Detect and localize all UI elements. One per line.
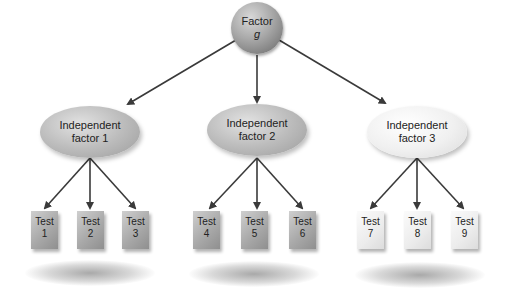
test-5-label: Test 5 bbox=[241, 216, 268, 240]
factor-g-label: Factor g bbox=[231, 15, 283, 41]
factor-3-label-line2: factor 3 bbox=[367, 132, 467, 145]
test-7-label-line1: Test bbox=[357, 216, 384, 228]
test-2-label: Test 2 bbox=[77, 216, 104, 240]
group-3-floor-shadow bbox=[355, 262, 485, 288]
test-4-label-line1: Test bbox=[193, 216, 220, 228]
test-2-label-line2: 2 bbox=[77, 228, 104, 240]
test-1-label-line2: 1 bbox=[31, 228, 58, 240]
test-6-box: Test 6 bbox=[289, 211, 316, 249]
test-7-label-line2: 7 bbox=[357, 228, 384, 240]
test-5-box: Test 5 bbox=[241, 211, 268, 249]
factor-2-label-line1: Independent bbox=[207, 117, 307, 130]
root-label-line1: Factor bbox=[231, 15, 283, 28]
test-9-box: Test 9 bbox=[451, 211, 478, 249]
group-1-floor-shadow bbox=[25, 260, 155, 286]
test-5-label-line2: 5 bbox=[241, 228, 268, 240]
factor-2-label-line2: factor 2 bbox=[207, 130, 307, 143]
test-1-label-line1: Test bbox=[31, 216, 58, 228]
factor-g-node: Factor g bbox=[231, 2, 283, 54]
test-8-box: Test 8 bbox=[404, 211, 431, 249]
test-5-label-line1: Test bbox=[241, 216, 268, 228]
test-3-box: Test 3 bbox=[122, 211, 149, 249]
test-9-label-line2: 9 bbox=[451, 228, 478, 240]
test-9-label-line1: Test bbox=[451, 216, 478, 228]
test-1-box: Test 1 bbox=[31, 211, 58, 249]
factor-1-label: Independent factor 1 bbox=[40, 119, 140, 145]
independent-factor-1-node: Independent factor 1 bbox=[40, 106, 140, 158]
test-4-box: Test 4 bbox=[193, 211, 220, 249]
hierarchical-factor-diagram: Factor g Independent factor 1 Independen… bbox=[0, 0, 507, 305]
test-3-label: Test 3 bbox=[122, 216, 149, 240]
test-3-label-line1: Test bbox=[122, 216, 149, 228]
test-8-label-line1: Test bbox=[404, 216, 431, 228]
test-3-label-line2: 3 bbox=[122, 228, 149, 240]
test-7-label: Test 7 bbox=[357, 216, 384, 240]
factor-2-label: Independent factor 2 bbox=[207, 117, 307, 143]
test-6-label-line1: Test bbox=[289, 216, 316, 228]
root-label-line2: g bbox=[231, 28, 283, 41]
test-4-label-line2: 4 bbox=[193, 228, 220, 240]
factor-1-label-line2: factor 1 bbox=[40, 132, 140, 145]
factor-3-label-line1: Independent bbox=[367, 119, 467, 132]
test-2-box: Test 2 bbox=[77, 211, 104, 249]
test-1-label: Test 1 bbox=[31, 216, 58, 240]
test-6-label: Test 6 bbox=[289, 216, 316, 240]
test-9-label: Test 9 bbox=[451, 216, 478, 240]
test-2-label-line1: Test bbox=[77, 216, 104, 228]
test-6-label-line2: 6 bbox=[289, 228, 316, 240]
factor-1-label-line1: Independent bbox=[40, 119, 140, 132]
group-2-floor-shadow bbox=[189, 261, 319, 287]
independent-factor-2-node: Independent factor 2 bbox=[207, 104, 307, 156]
test-4-label: Test 4 bbox=[193, 216, 220, 240]
factor-3-label: Independent factor 3 bbox=[367, 119, 467, 145]
test-7-box: Test 7 bbox=[357, 211, 384, 249]
test-8-label: Test 8 bbox=[404, 216, 431, 240]
independent-factor-3-node: Independent factor 3 bbox=[367, 106, 467, 158]
test-8-label-line2: 8 bbox=[404, 228, 431, 240]
